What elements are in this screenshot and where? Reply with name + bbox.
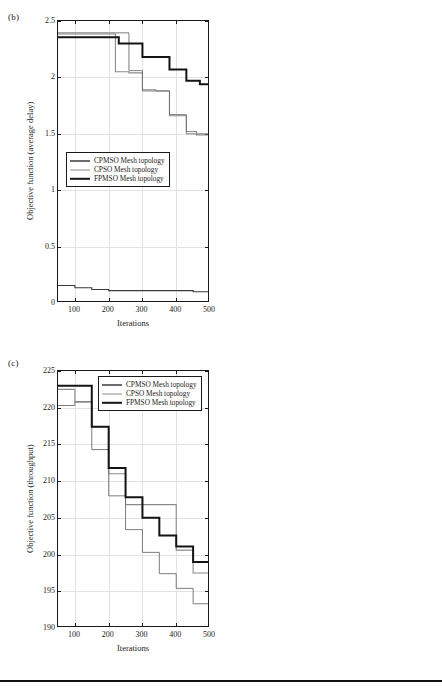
figure-root: (b) 10020030040050000.511.522.5Iteration… [0,0,442,697]
xtick-label: 100 [68,630,80,639]
series-line [58,286,209,292]
chart-legend[interactable]: CPMSO Mesh topologyCPSO Mesh topologyFPM… [66,152,170,187]
ytick-label: 1 [35,185,55,194]
ytick-label: 225 [35,366,55,375]
legend-item[interactable]: FPMSO Mesh topology [102,398,197,407]
xtick-label: 300 [135,630,147,639]
legend-label: CPSO Mesh topology [126,389,190,398]
x-axis-title: Iterations [221,318,442,328]
series-line [58,33,209,138]
legend-label: FPMSO Mesh topology [126,398,196,407]
series-line [58,389,209,573]
footer-rule [0,680,442,682]
chart-c-left: 100200300400500190195200205210215220225I… [0,348,221,678]
series-line [58,37,209,85]
ytick-label: 195 [35,586,55,595]
legend-item[interactable]: FPMSO Mesh topology [70,174,165,183]
ytick-label: 0.5 [35,241,55,250]
xtick-label: 100 [68,305,80,314]
ytick-label: 2.5 [35,16,55,25]
xtick-label: 300 [135,305,147,314]
xtick-label: 500 [203,305,215,314]
series-line [58,386,209,562]
legend-item[interactable]: CPMSO Mesh topology [70,156,165,165]
ytick-label: 205 [35,512,55,521]
y-axis-title: Objective function (average delay) [25,102,35,220]
ytick-label: 215 [35,439,55,448]
ytick-label: 1.5 [35,128,55,137]
y-axis-title: Objective function (throughput) [25,444,35,553]
ytick-label: 210 [35,476,55,485]
ytick-label: 220 [35,402,55,411]
ytick-label: 190 [35,623,55,632]
x-axis-title: Iterations [221,643,442,653]
xtick-label: 400 [169,305,181,314]
legend-label: CPSO Mesh topology [94,165,158,174]
xtick-label: 500 [203,630,215,639]
chart-b-right: 0100200300400500050010001500IterationsFi… [221,0,442,348]
ytick-label: 0 [35,298,55,307]
xtick-label: 200 [102,305,114,314]
chart-b-left: 10020030040050000.511.522.5IterationsObj… [0,0,221,348]
ytick-label: 2 [35,72,55,81]
series-line [58,402,209,604]
xtick-label: 200 [102,630,114,639]
ytick-label: 200 [35,549,55,558]
legend-label: CPMSO Mesh topology [126,380,197,389]
chart-legend[interactable]: CPMSO Mesh topologyCPSO Mesh topologyFPM… [98,376,202,411]
legend-label: CPMSO Mesh topology [94,156,165,165]
chart-c-right: 010020030040050002468101214× 10⁴Iteratio… [221,348,442,678]
panel-c: (c) 100200300400500190195200205210215220… [0,348,442,678]
legend-item[interactable]: CPSO Mesh topology [102,389,197,398]
legend-item[interactable]: CPSO Mesh topology [70,165,165,174]
legend-label: FPMSO Mesh topology [94,174,164,183]
legend-item[interactable]: CPMSO Mesh topology [102,380,197,389]
xtick-label: 400 [169,630,181,639]
panel-b: (b) 10020030040050000.511.522.5Iteration… [0,0,442,348]
